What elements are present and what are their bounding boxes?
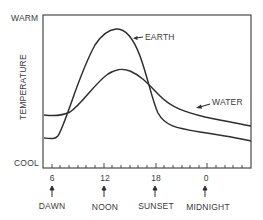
earth-label: EARTH — [145, 32, 175, 42]
water-annotation — [196, 104, 210, 109]
temperature-diagram: EARTH WATER WARM COOL TEMPERATURE 6 12 1… — [0, 0, 263, 220]
x-tick-12: 12 — [100, 173, 110, 183]
event-midnight: MIDNIGHT — [186, 202, 230, 212]
earth-curve — [44, 29, 251, 141]
event-arrows — [50, 186, 207, 197]
cool-label: COOL — [14, 158, 39, 168]
water-label: WATER — [212, 97, 243, 107]
temperature-axis-label: TEMPERATURE — [18, 54, 28, 120]
warm-label: WARM — [11, 13, 38, 23]
earth-annotation — [133, 36, 143, 40]
event-sunset: SUNSET — [138, 201, 174, 211]
event-dawn: DAWN — [39, 201, 65, 211]
x-tick-0: 0 — [204, 173, 209, 183]
x-tick-6: 6 — [50, 173, 55, 183]
event-noon: NOON — [92, 202, 118, 212]
x-axis-ticks — [52, 163, 242, 168]
x-tick-18: 18 — [151, 173, 161, 183]
